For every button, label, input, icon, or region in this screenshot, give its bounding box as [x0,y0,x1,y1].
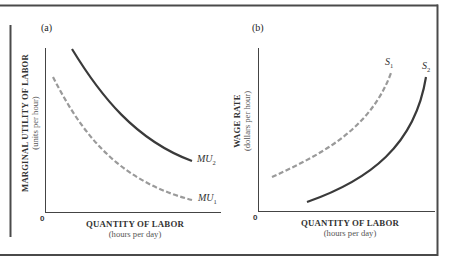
panel-b-origin: 0 [253,213,257,222]
panel-b-y-axis-title: WAGE RATE [232,76,242,166]
panel-a-x-axis-unit: (hours per day) [70,229,200,239]
label-s1: S1 [385,56,393,69]
label-s2: S2 [422,60,430,73]
panel-a-y-axis-label: MARGINAL UTILITY OF LABOR (units per hou… [20,48,40,198]
panel-b-label: (b) [252,22,264,33]
curve-s2 [307,77,426,202]
panel-b-x-axis-title: QUANTITY OF LABOR [285,218,415,228]
panel-a-origin: 0 [40,214,44,223]
panel-a-x-axis-title: QUANTITY OF LABOR [70,219,200,229]
panel-a-x-axis-label: QUANTITY OF LABOR (hours per day) [70,219,200,239]
label-mu1: MU1 [198,192,217,205]
panel-a-y-axis-title: MARGINAL UTILITY OF LABOR [20,48,30,198]
panel-a-y-axis-unit: (units per hour) [30,48,40,198]
figure: (a) MARGINAL UTILITY OF LABOR (units per… [0,0,451,260]
panel-a-label: (a) [41,22,52,33]
curve-s1 [272,73,391,177]
curve-mu1 [53,77,192,200]
panel-b-x-axis-label: QUANTITY OF LABOR (hours per day) [285,218,415,238]
panel-b-y-axis-label: WAGE RATE (dollars per hour) [232,76,252,166]
curve-mu2 [72,49,192,161]
label-mu2: MU2 [197,153,216,166]
panel-b-y-axis-unit: (dollars per hour) [242,76,252,166]
panel-b-x-axis-unit: (hours per day) [285,228,415,238]
